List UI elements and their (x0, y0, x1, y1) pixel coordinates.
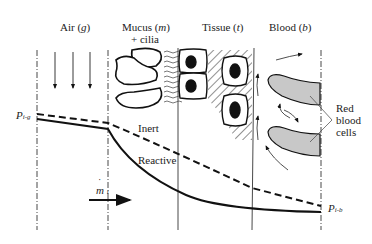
red-blood-cells (268, 75, 320, 156)
label-p-ib: Pi-b (328, 202, 343, 216)
mucus-blobs (116, 48, 162, 108)
blood-close: ) (308, 21, 312, 33)
label-rbc: Red blood cells (336, 102, 361, 138)
p-left-symbol: P (16, 109, 23, 121)
mucus-close: ) (166, 21, 170, 33)
label-tissue: Tissue (t) (202, 21, 243, 33)
label-inert: Inert (138, 122, 159, 134)
rbc-line-3: cells (336, 126, 361, 138)
label-mucus: Mucus (m) (122, 21, 170, 33)
gas-transfer-diagram (0, 0, 372, 244)
label-air: Air (g) (60, 21, 90, 33)
label-blood: Blood (b) (269, 21, 311, 33)
p-right-symbol: P (328, 202, 335, 214)
blood-text: Blood ( (269, 21, 302, 33)
rbc-line-2: blood (336, 114, 361, 126)
label-reactive: Reactive (138, 154, 176, 166)
air-text: Air ( (60, 21, 81, 33)
dot-accent: ˙ (98, 177, 101, 189)
rbc-line-1: Red (336, 102, 361, 114)
tissue-close: ) (240, 21, 244, 33)
label-cilia: + cilia (131, 33, 159, 45)
label-flux: ˙ m i (96, 184, 109, 198)
air-close: ) (87, 21, 91, 33)
mucus-text: Mucus ( (122, 21, 158, 33)
air-flow-arrows (55, 52, 90, 88)
boundary-tissue-blood (252, 48, 254, 230)
tissue-text: Tissue ( (202, 21, 237, 33)
p-left-subscript: i-g (23, 113, 31, 121)
label-p-ig: Pi-g (16, 109, 31, 123)
p-right-subscript: i-b (335, 206, 343, 214)
